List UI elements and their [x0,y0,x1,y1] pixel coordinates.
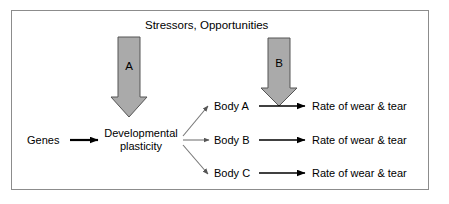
node-rate-c: Rate of wear & tear [312,167,407,180]
node-body-b: Body B [214,134,249,147]
block-arrow-a [111,37,147,117]
diagram-canvas: Stressors, Opportunities A B Genes Devel… [0,0,449,204]
node-genes: Genes [27,134,59,147]
block-arrow-b [261,38,297,106]
connector-plasticity-to-body-c [183,145,208,174]
node-developmental-plasticity: Developmental plasticity [101,127,181,153]
node-rate-a: Rate of wear & tear [312,100,407,113]
diagram-title: Stressors, Opportunities [145,19,268,32]
node-rate-b: Rate of wear & tear [312,134,407,147]
node-body-c: Body C [214,167,250,180]
block-arrow-b-label: B [262,57,296,69]
connector-plasticity-to-body-a [183,106,208,136]
block-arrow-a-label: A [112,60,146,72]
node-body-a: Body A [214,100,249,113]
